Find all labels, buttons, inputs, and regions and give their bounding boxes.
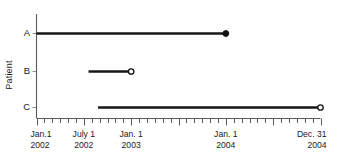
x-tick-label-year: 2003 — [122, 140, 141, 150]
x-tick-label-date: Dec. 31 — [297, 129, 327, 139]
timeline-row-b — [89, 69, 134, 74]
x-tick-label-date: July 1 — [73, 129, 96, 139]
y-axis-title: Patient — [4, 60, 14, 90]
event-marker-a — [223, 31, 229, 37]
x-tick-label-group: Jan.12002 — [31, 129, 52, 150]
category-label-a: A — [24, 27, 31, 38]
x-tick-label-date: Jan.1 — [31, 129, 52, 139]
category-label-b: B — [24, 65, 30, 76]
y-axis-ticks — [33, 34, 37, 108]
x-tick-label-year: 2002 — [74, 140, 93, 150]
x-tick-label-year: 2004 — [307, 140, 326, 150]
x-tick-label-year: 2004 — [216, 140, 235, 150]
timeline-series — [37, 31, 324, 111]
censored-marker-b — [128, 69, 133, 74]
x-tick-label-date: Jan. 1 — [119, 129, 143, 139]
censored-marker-c — [318, 105, 323, 110]
chart-canvas: Patient ABC Jan.12002July 12002Jan. 1200… — [0, 0, 340, 160]
timeline-chart: Patient ABC Jan.12002July 12002Jan. 1200… — [0, 0, 340, 160]
timeline-row-c — [98, 105, 323, 110]
y-axis-category-labels: ABC — [23, 27, 31, 112]
x-tick-label-group: July 12002 — [73, 129, 96, 150]
x-axis-tick-labels: Jan.12002July 12002Jan. 12003Jan. 12004D… — [31, 129, 327, 150]
x-tick-label-date: Jan. 1 — [214, 129, 238, 139]
x-tick-label-year: 2002 — [31, 140, 50, 150]
x-tick-label-group: Dec. 312004 — [297, 129, 327, 150]
x-tick-label-group: Jan. 12003 — [119, 129, 143, 150]
x-axis-ticks — [38, 119, 322, 126]
x-tick-label-group: Jan. 12004 — [214, 129, 238, 150]
timeline-row-a — [37, 31, 229, 37]
category-label-c: C — [23, 101, 30, 112]
